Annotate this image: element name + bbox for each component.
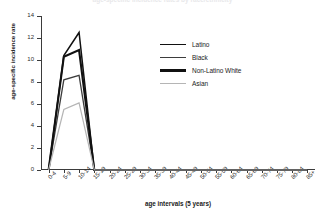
x-axis-title: age intervals (5 years): [41, 200, 315, 207]
chart-figure: age-specific incidence rates by race/eth…: [0, 0, 325, 221]
y-tick: 0: [37, 170, 41, 171]
y-tick-label: 0: [31, 166, 34, 172]
legend-item-latino[interactable]: Latino: [160, 38, 280, 51]
legend-item-asian[interactable]: Asian: [160, 77, 280, 90]
legend-swatch: [160, 57, 186, 58]
y-tick-label: 12: [27, 34, 34, 40]
y-tick-label: 14: [27, 12, 34, 18]
legend-swatch: [160, 44, 186, 46]
legend-label: Black: [192, 54, 208, 61]
y-tick-label: 10: [27, 56, 34, 62]
legend-item-non-latino-white[interactable]: Non-Latino White: [160, 64, 280, 77]
legend-label: Latino: [192, 41, 209, 48]
legend-swatch: [160, 83, 186, 84]
chart-title: age-specific incidence rates by race/eth…: [0, 0, 325, 4]
y-tick-label: 8: [31, 78, 34, 84]
legend-label: Non-Latino White: [192, 67, 241, 74]
legend-swatch: [160, 69, 186, 71]
y-tick-label: 6: [31, 100, 34, 106]
legend-label: Asian: [192, 80, 208, 87]
y-tick-label: 2: [31, 144, 34, 150]
legend-item-black[interactable]: Black: [160, 51, 280, 64]
chart-legend: LatinoBlackNon-Latino WhiteAsian: [160, 38, 280, 90]
y-axis-title: age-specific incidence rate: [9, 2, 16, 122]
y-tick-label: 4: [31, 122, 34, 128]
